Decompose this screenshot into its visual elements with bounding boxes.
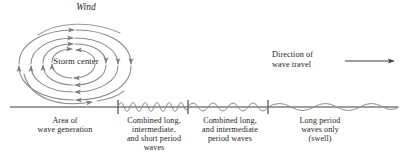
storm-center-label: Storm center bbox=[38, 57, 114, 67]
zone-caption-area-of-wave-generation: Area of wave generation bbox=[12, 116, 118, 134]
direction-of-wave-travel-label: Direction of wave travel bbox=[272, 50, 344, 71]
zone-caption-combined-long-intermediate-short: Combined long, intermediate, and short p… bbox=[116, 116, 192, 152]
zone-caption-combined-long-intermediate: Combined long, and intermediate period w… bbox=[190, 116, 270, 143]
wind-label: Wind bbox=[58, 2, 114, 13]
zone-caption-long-period-swell: Long period waves only (swell) bbox=[280, 116, 360, 143]
